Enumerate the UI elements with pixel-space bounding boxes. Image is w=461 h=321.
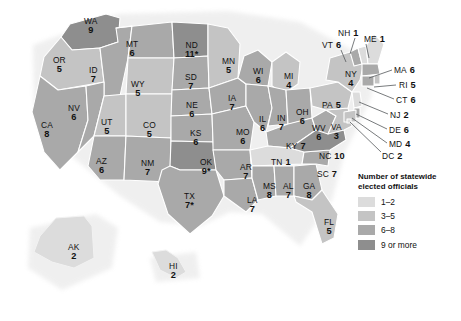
legend-swatch-4 <box>358 240 375 250</box>
state-shape-NE[interactable] <box>171 88 212 116</box>
state-shape-ME[interactable] <box>366 34 384 64</box>
legend-swatch-2 <box>358 211 375 221</box>
leader-line-DE <box>356 114 387 129</box>
legend-item-1: 1–2 <box>358 197 458 207</box>
leader-line-RI <box>374 85 396 87</box>
legend-item-4: 9 or more <box>358 240 458 250</box>
legend-label-3: 6–8 <box>381 225 395 235</box>
legend-title: Number of statewide elected officials <box>358 172 458 193</box>
leader-line-MD <box>352 118 387 143</box>
legend-label-2: 3–5 <box>381 211 395 221</box>
state-shape-SC[interactable] <box>302 150 330 166</box>
leader-line-DC <box>350 122 381 152</box>
legend-title-line2: elected officials <box>358 182 418 191</box>
map-legend: Number of statewide elected officials 1–… <box>358 172 458 250</box>
state-shape-TX[interactable] <box>158 166 224 234</box>
legend-swatch-1 <box>358 197 375 207</box>
legend-title-line1: Number of statewide <box>358 172 437 181</box>
legend-item-3: 6–8 <box>358 225 458 235</box>
legend-label-4: 9 or more <box>381 240 417 250</box>
state-shape-CT[interactable] <box>362 76 374 86</box>
state-shape-AL[interactable] <box>274 166 294 196</box>
state-shape-WY[interactable] <box>126 58 174 94</box>
state-shape-NJ[interactable] <box>352 92 362 108</box>
state-shape-SD[interactable] <box>172 56 209 90</box>
state-shape-AZ[interactable] <box>88 136 126 180</box>
legend-rows: 1–23–56–89 or more <box>358 197 458 250</box>
legend-label-1: 1–2 <box>381 197 395 207</box>
map-geometry <box>0 0 461 321</box>
state-shape-ND[interactable] <box>172 22 208 58</box>
legend-item-2: 3–5 <box>358 211 458 221</box>
state-shape-CO[interactable] <box>126 94 172 138</box>
state-shape-MA[interactable] <box>362 64 380 76</box>
legend-swatch-3 <box>358 225 375 235</box>
us-choropleth-map: WA9OR5CA8ID7NV6MT6WY5UT5CO5AZ6NM7ND11*SD… <box>0 0 461 321</box>
state-shape-KS[interactable] <box>171 114 213 142</box>
state-shape-MO[interactable] <box>212 106 254 150</box>
state-shape-OK[interactable] <box>170 141 216 170</box>
